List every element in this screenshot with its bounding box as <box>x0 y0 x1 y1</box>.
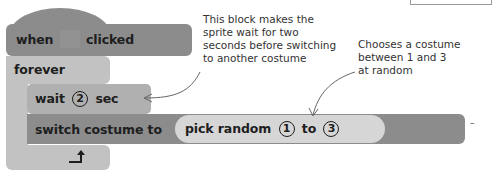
random-callout-arrow-icon <box>309 72 355 116</box>
wait-callout-arrow-icon <box>144 72 200 102</box>
cropped-text: – <box>470 118 475 128</box>
